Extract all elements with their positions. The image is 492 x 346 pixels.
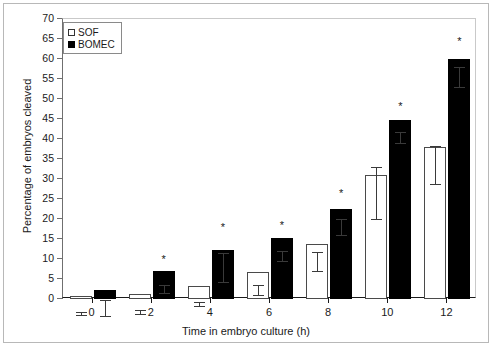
x-axis-tick-label: 10: [367, 306, 407, 318]
error-bar: [435, 146, 436, 184]
error-bar-cap: [430, 146, 441, 147]
y-axis-tick-label: 55: [28, 73, 54, 83]
error-bar-cap: [312, 271, 323, 272]
y-axis-tick-label: 15: [28, 233, 54, 243]
legend-item-sof: SOF: [68, 26, 115, 38]
error-bar: [376, 167, 377, 218]
x-axis-tick: [328, 298, 329, 303]
x-axis-tick: [269, 298, 270, 303]
x-axis-tick-label: 4: [190, 306, 230, 318]
error-bar-cap: [100, 300, 111, 301]
x-axis-tick-label: 2: [131, 306, 171, 318]
error-bar: [282, 251, 283, 261]
y-axis-tick-label: 50: [28, 93, 54, 103]
bar-bomec-10h: [389, 120, 411, 299]
significance-marker: *: [333, 189, 349, 197]
error-bar-cap: [395, 132, 406, 133]
error-bar-cap: [336, 219, 347, 220]
x-axis-title: Time in embryo culture (h): [0, 325, 492, 337]
error-bar-cap: [194, 302, 205, 303]
error-bar-cap: [371, 219, 382, 220]
bar-bomec-12h: [448, 59, 470, 299]
x-axis-tick-label: 6: [249, 306, 289, 318]
error-bar-cap: [277, 261, 288, 262]
y-axis-tick-label: 70: [28, 13, 54, 23]
significance-marker: *: [392, 102, 408, 110]
y-axis-tick-label: 45: [28, 113, 54, 123]
legend-label-bomec: BOMEC: [78, 39, 115, 50]
significance-marker: *: [451, 37, 467, 45]
y-axis-tick-label: 40: [28, 133, 54, 143]
error-bar-cap: [218, 253, 229, 254]
error-bar: [317, 252, 318, 271]
error-bar-cap: [159, 285, 170, 286]
significance-marker: *: [156, 255, 172, 263]
y-axis-tick: [57, 298, 63, 299]
error-bar-cap: [253, 285, 264, 286]
error-bar-cap: [159, 293, 170, 294]
y-axis-tick-label: 35: [28, 153, 54, 163]
x-axis-tick: [151, 298, 152, 303]
error-bar-cap: [371, 167, 382, 168]
error-bar: [258, 285, 259, 295]
significance-marker: *: [274, 221, 290, 229]
x-axis-tick-label: 0: [72, 306, 112, 318]
error-bar-cap: [395, 143, 406, 144]
error-bar-cap: [454, 67, 465, 68]
chart-figure: Percentage of embryos cleaved 0510152025…: [0, 0, 492, 346]
y-axis-tick-label: 65: [28, 33, 54, 43]
bar-sof-4h: [188, 286, 210, 299]
bar-bomec-6h: [271, 238, 293, 299]
x-axis-tick-label: 12: [426, 306, 466, 318]
error-bar-cap: [454, 87, 465, 88]
y-axis-tick-label: 60: [28, 53, 54, 63]
legend-swatch-filled-icon: [68, 41, 75, 48]
error-bar: [400, 132, 401, 143]
y-axis-tick-label: 30: [28, 173, 54, 183]
x-axis-tick: [446, 298, 447, 303]
x-axis-tick: [92, 298, 93, 303]
x-axis-tick: [210, 298, 211, 303]
error-bar-cap: [336, 235, 347, 236]
error-bar-cap: [218, 282, 229, 283]
error-bar-cap: [312, 252, 323, 253]
error-bar-cap: [253, 295, 264, 296]
y-axis-tick-label: 20: [28, 213, 54, 223]
x-axis-tick: [387, 298, 388, 303]
y-axis-tick-label: 0: [28, 293, 54, 303]
x-axis-tick-label: 8: [308, 306, 348, 318]
error-bar-cap: [277, 251, 288, 252]
bar-bomec-0h: [94, 290, 116, 299]
bar-sof-2h: [129, 294, 151, 299]
plot-area: ******: [62, 18, 476, 298]
legend-label-sof: SOF: [78, 27, 99, 38]
bar-sof-0h: [70, 296, 92, 299]
legend-swatch-open-icon: [68, 29, 75, 36]
error-bar: [459, 67, 460, 87]
significance-marker: *: [215, 223, 231, 231]
y-axis-tick-label: 10: [28, 253, 54, 263]
error-bar: [223, 253, 224, 282]
error-bar: [164, 285, 165, 293]
error-bar-cap: [430, 184, 441, 185]
chart-legend: SOF BOMEC: [63, 22, 122, 54]
y-axis-tick-label: 25: [28, 193, 54, 203]
y-axis-tick-label: 5: [28, 273, 54, 283]
legend-item-bomec: BOMEC: [68, 38, 115, 50]
error-bar: [341, 219, 342, 235]
